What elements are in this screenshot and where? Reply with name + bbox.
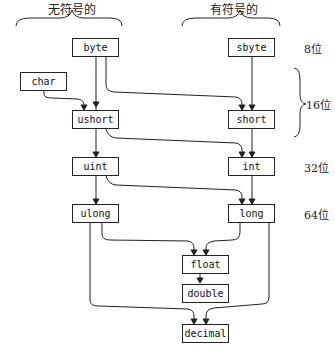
header-unsigned: 无符号的 xyxy=(48,0,96,17)
node-ulong: ulong xyxy=(72,204,119,223)
node-byte: byte xyxy=(72,38,119,57)
node-int: int xyxy=(228,157,275,176)
bit-label-64: 64位 xyxy=(304,206,329,222)
node-short: short xyxy=(228,110,275,129)
node-sbyte: sbyte xyxy=(228,38,275,57)
bit-label-16: 16位 xyxy=(306,96,331,112)
node-float: float xyxy=(182,255,229,274)
node-double: double xyxy=(182,284,229,303)
node-ushort: ushort xyxy=(72,110,119,129)
header-signed: 有符号的 xyxy=(210,0,258,17)
bit-label-32: 32位 xyxy=(304,159,329,175)
node-char: char xyxy=(20,72,67,91)
node-decimal: decimal xyxy=(182,324,229,343)
connector-lines xyxy=(0,0,335,356)
node-uint: uint xyxy=(72,157,119,176)
bit-label-8: 8位 xyxy=(304,40,322,56)
node-long: long xyxy=(228,204,275,223)
